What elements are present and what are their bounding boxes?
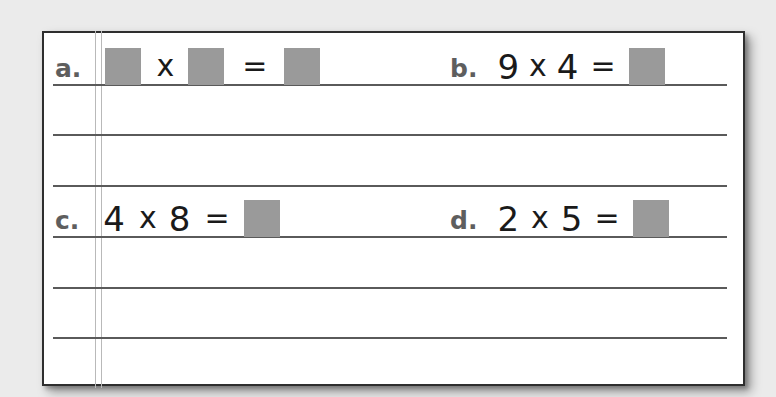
- equals-sign: =: [242, 51, 267, 81]
- answer-box[interactable]: [629, 48, 665, 85]
- factor-right: 4: [557, 50, 579, 84]
- rule-line-5: [53, 287, 727, 289]
- blank-factor-box[interactable]: [188, 48, 224, 85]
- problem-c: c. 4 x 8 =: [55, 197, 280, 237]
- equals-sign: =: [204, 203, 229, 233]
- answer-box[interactable]: [633, 200, 669, 237]
- problem-label: a.: [55, 56, 81, 81]
- factor-left: 9: [497, 50, 519, 84]
- problem-b: b. 9 x 4 =: [450, 45, 665, 85]
- factor-left: 4: [103, 202, 125, 236]
- problem-d: d. 2 x 5 =: [450, 197, 669, 237]
- answer-box[interactable]: [284, 48, 320, 85]
- rule-line-6: [53, 337, 727, 339]
- answer-box[interactable]: [244, 200, 280, 237]
- lined-paper-card: a. x = b. 9 x 4 = c. 4 x 8 = d. 2 x 5 =: [42, 31, 745, 386]
- operator-multiply: x: [531, 203, 549, 233]
- problem-label: d.: [450, 208, 477, 233]
- rule-line-2: [53, 134, 727, 136]
- factor-right: 8: [169, 202, 191, 236]
- operator-multiply: x: [156, 51, 174, 81]
- problem-label: c.: [55, 208, 79, 233]
- equals-sign: =: [590, 51, 615, 81]
- equals-sign: =: [594, 203, 619, 233]
- operator-multiply: x: [139, 203, 157, 233]
- operator-multiply: x: [529, 51, 547, 81]
- problem-a: a. x =: [55, 45, 320, 85]
- factor-left: 2: [497, 202, 519, 236]
- rule-line-3: [53, 185, 727, 187]
- problem-label: b.: [450, 56, 477, 81]
- factor-right: 5: [561, 202, 583, 236]
- blank-factor-box[interactable]: [105, 48, 141, 85]
